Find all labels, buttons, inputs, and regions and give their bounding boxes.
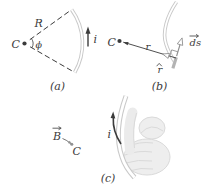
point-c-dot <box>117 39 121 43</box>
angle-marker-arc <box>31 39 33 48</box>
caption-a: (a) <box>50 80 65 93</box>
point-c-label: C <box>12 38 21 51</box>
current-arrow-head <box>111 112 116 119</box>
angle-phi-label: ϕ <box>36 39 43 50</box>
hand-index-finger <box>139 117 165 139</box>
r-arrow-head <box>123 42 128 45</box>
physics-figure-magnetic-field-of-arc: C R ϕ i (a) C r r ds (b) B C <box>0 0 212 188</box>
ds-vector-shaft <box>177 45 180 57</box>
ds-label: ds <box>190 37 202 48</box>
caption-c: (c) <box>101 172 116 185</box>
point-c-label: C <box>73 145 82 158</box>
point-c-dot <box>22 41 26 45</box>
current-i-label: i <box>108 128 112 141</box>
r-hat-open-head <box>163 53 170 58</box>
point-c-label: C <box>108 36 117 49</box>
panel-c: B C i (c) <box>52 96 170 185</box>
ds-vector-open-head <box>177 38 182 46</box>
current-arrow-head <box>86 27 91 34</box>
radius-dashed-line-lower <box>30 47 74 72</box>
hand-thumb <box>129 113 133 151</box>
radius-r-label: R <box>34 17 43 30</box>
panel-b: C r r ds (b) <box>108 2 202 93</box>
current-i-label: i <box>94 33 98 46</box>
caption-b: (b) <box>152 80 168 93</box>
distance-r-label: r <box>146 41 152 52</box>
right-hand-illustration <box>124 113 170 176</box>
panel-a: C R ϕ i (a) <box>12 10 98 93</box>
unit-vector-r-label: r <box>158 64 164 75</box>
field-b-label: B <box>52 130 61 143</box>
